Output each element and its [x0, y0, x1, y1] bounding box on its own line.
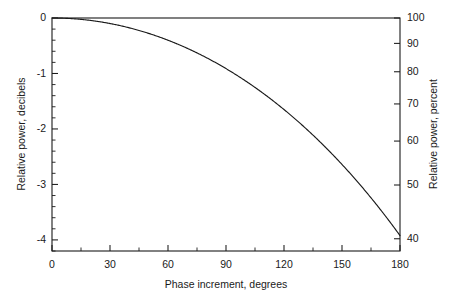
x-axis-title: Phase increment, degrees — [165, 278, 288, 290]
x-tick-label: 120 — [275, 258, 293, 270]
y-axis-tick-labels: 0-1-2-3-4 — [37, 11, 47, 245]
y-tick-label: 0 — [40, 11, 46, 23]
y2-tick-label: 70 — [407, 97, 419, 109]
y-tick-label: -3 — [37, 178, 46, 190]
y2-tick-label: 100 — [407, 11, 425, 23]
x-tick-label: 150 — [333, 258, 351, 270]
y2-axis-title: Relative power, percent — [427, 79, 439, 189]
y2-tick-label: 60 — [407, 134, 419, 146]
x-axis-tick-labels: 0306090120150180 — [49, 258, 409, 270]
x-tick-label: 30 — [104, 258, 116, 270]
y2-axis-ticks — [394, 18, 400, 239]
y-tick-label: -2 — [37, 122, 46, 134]
y-axis-title: Relative power, decibels — [15, 77, 27, 190]
x-tick-label: 0 — [49, 258, 55, 270]
y2-tick-label: 90 — [407, 37, 419, 49]
x-tick-label: 90 — [220, 258, 232, 270]
chart-svg: 0306090120150180 0-1-2-3-4 1009080706050… — [0, 0, 459, 301]
y2-axis-tick-labels: 100908070605040 — [407, 11, 425, 244]
y-axis-minor-ticks — [52, 29, 56, 251]
y2-tick-label: 50 — [407, 178, 419, 190]
x-axis-ticks — [52, 245, 400, 251]
y2-tick-label: 40 — [407, 232, 419, 244]
y-tick-label: -4 — [37, 233, 46, 245]
power-loss-curve — [52, 18, 400, 236]
plot-frame — [52, 18, 400, 251]
x-tick-label: 60 — [162, 258, 174, 270]
y2-tick-label: 80 — [407, 65, 419, 77]
chart-figure: 0306090120150180 0-1-2-3-4 1009080706050… — [0, 0, 459, 301]
y-tick-label: -1 — [37, 67, 46, 79]
x-tick-label: 180 — [391, 258, 409, 270]
